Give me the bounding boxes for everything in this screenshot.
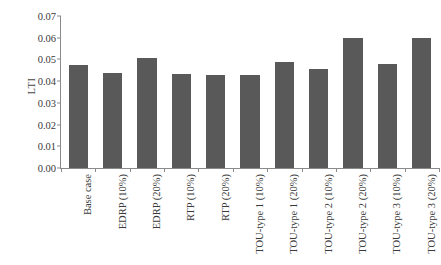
x-tick-mark — [130, 168, 131, 172]
x-tick-label: TOU-type 3 (20%) — [426, 174, 437, 254]
y-tick-mark — [57, 102, 61, 103]
x-tick-mark — [61, 168, 62, 172]
y-tick-mark — [57, 124, 61, 125]
x-tick-label: Base case — [82, 174, 93, 215]
bar — [137, 58, 156, 168]
y-tick-label: 0.00 — [38, 163, 56, 174]
bar — [309, 69, 328, 168]
x-tick-label: TOU-type 3 (10%) — [391, 174, 402, 254]
x-tick-label: TOU-type 1 (10%) — [254, 174, 265, 254]
bar — [275, 62, 294, 168]
x-tick-mark — [439, 168, 440, 172]
y-tick-label: 0.01 — [38, 141, 56, 152]
x-tick-label: EDRP (10%) — [117, 174, 128, 229]
bar-chart-figure: LTI 0.000.010.020.030.040.050.060.07Base… — [0, 0, 441, 265]
y-tick-label: 0.02 — [38, 119, 56, 130]
x-tick-mark — [336, 168, 337, 172]
x-tick-mark — [302, 168, 303, 172]
x-tick-label: RTP (10%) — [185, 174, 196, 221]
x-tick-label: RTP (20%) — [220, 174, 231, 221]
bar — [206, 75, 225, 168]
x-tick-mark — [233, 168, 234, 172]
x-tick-mark — [267, 168, 268, 172]
bar — [103, 73, 122, 168]
y-tick-label: 0.05 — [38, 54, 56, 65]
y-axis-title: LTI — [26, 56, 38, 116]
bar — [343, 38, 362, 168]
x-tick-label: TOU-type 1 (20%) — [288, 174, 299, 254]
x-tick-mark — [164, 168, 165, 172]
y-tick-label: 0.03 — [38, 97, 56, 108]
x-tick-mark — [198, 168, 199, 172]
bar — [412, 38, 431, 168]
bar — [69, 65, 88, 168]
y-tick-label: 0.06 — [38, 32, 56, 43]
x-tick-label: TOU-type 2 (10%) — [323, 174, 334, 254]
x-tick-mark — [405, 168, 406, 172]
y-tick-mark — [57, 146, 61, 147]
bar — [240, 75, 259, 168]
bar — [378, 64, 397, 168]
y-tick-mark — [57, 81, 61, 82]
bar — [172, 74, 191, 168]
plot-area: 0.000.010.020.030.040.050.060.07Base cas… — [60, 16, 439, 169]
x-tick-label: EDRP (20%) — [151, 174, 162, 229]
y-tick-label: 0.07 — [38, 11, 56, 22]
y-tick-mark — [57, 59, 61, 60]
y-tick-mark — [57, 16, 61, 17]
x-tick-mark — [370, 168, 371, 172]
y-tick-mark — [57, 37, 61, 38]
y-tick-label: 0.04 — [38, 76, 56, 87]
x-tick-mark — [95, 168, 96, 172]
x-tick-label: TOU-type 2 (20%) — [357, 174, 368, 254]
